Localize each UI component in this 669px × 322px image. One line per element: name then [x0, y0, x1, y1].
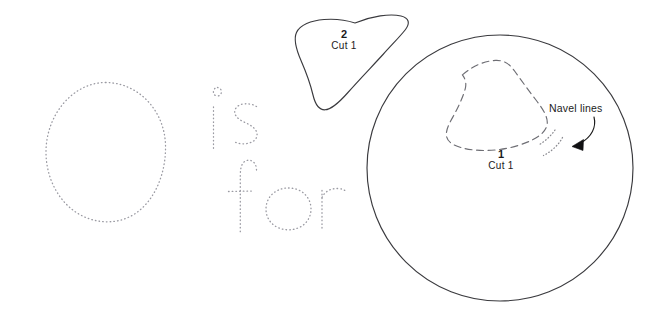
navel-callout-arrow-head: [572, 140, 584, 151]
piece-1-number: 1: [468, 148, 534, 160]
navel-lines-label: Navel lines: [549, 103, 603, 115]
piece-1-label: 1 Cut 1: [468, 148, 534, 172]
navel-line-upper: [540, 130, 556, 145]
piece-2-label: 2 Cut 1: [311, 28, 377, 52]
pattern-sheet: 1 Cut 1 2 Cut 1 Navel lines: [0, 0, 669, 322]
piece-2-number: 2: [311, 28, 377, 40]
piece-2-cut: Cut 1: [311, 40, 377, 51]
navel-callout-arrow-line: [580, 117, 595, 144]
piece-1-cut: Cut 1: [468, 160, 534, 171]
